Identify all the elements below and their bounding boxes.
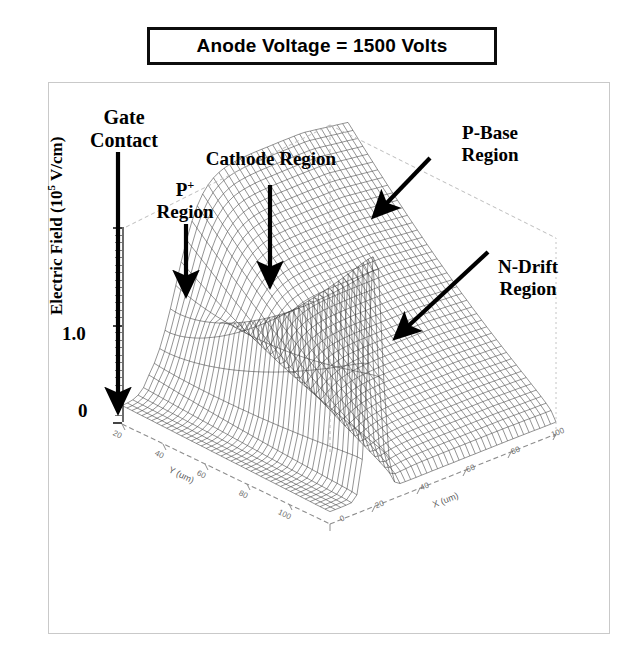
annotation-arrows bbox=[0, 0, 632, 656]
figure-root: Anode Voltage = 1500 Volts Electric Fiel… bbox=[0, 0, 632, 656]
arrow-n-drift-region bbox=[404, 252, 488, 330]
arrow-p-base-region bbox=[382, 158, 430, 208]
